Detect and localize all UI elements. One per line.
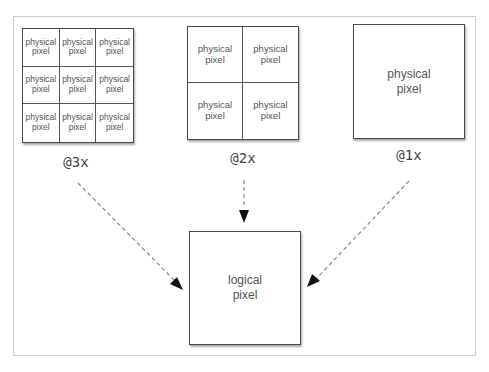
arrow-2x-to-logical <box>239 180 249 223</box>
arrow-3x-to-logical <box>78 183 183 290</box>
arrows-layer <box>0 0 489 372</box>
arrow-1x-to-logical <box>307 181 409 287</box>
arrowhead-icon <box>239 210 249 223</box>
arrowhead-icon <box>170 277 183 290</box>
arrowhead-icon <box>307 274 320 287</box>
